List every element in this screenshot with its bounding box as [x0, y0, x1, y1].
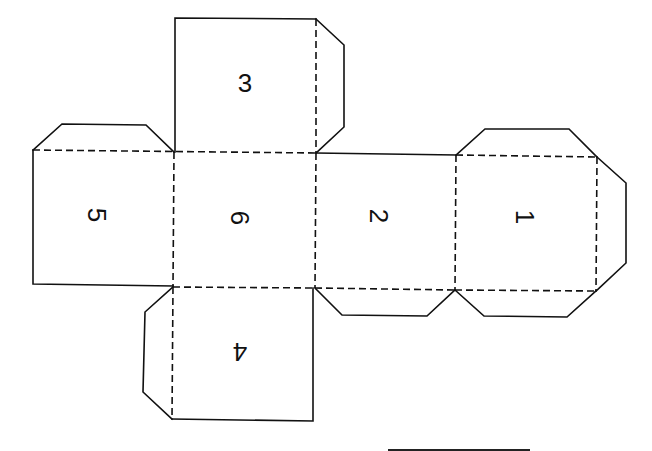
- cube-net-diagram: 3 5 6 2 1 4: [0, 0, 652, 451]
- face-3-label: 3: [215, 63, 275, 103]
- fold-6-4: [173, 287, 315, 288]
- face-6-label: 6: [220, 188, 260, 248]
- fold-1-top: [456, 155, 597, 157]
- face-2-label: 2: [359, 186, 399, 246]
- face-5-top-flap: [33, 124, 174, 152]
- face-4-label: 4: [210, 332, 270, 372]
- fold-5-6: [173, 152, 174, 287]
- face-4-left-flap: [143, 287, 173, 419]
- face-3-right-flap: [316, 19, 344, 153]
- fold-1-bottom: [455, 290, 596, 291]
- face-1-bottom-flap: [455, 290, 596, 317]
- fold-2-bottom: [315, 288, 455, 290]
- face-1-label: 1: [505, 187, 545, 247]
- face-2-bottom-flap: [315, 288, 455, 316]
- fold-4-left: [172, 287, 173, 419]
- face-5-label: 5: [77, 185, 117, 245]
- fold-2-1: [455, 155, 456, 290]
- face-1-right-flap: [596, 157, 626, 291]
- fold-6-2: [315, 153, 316, 288]
- face-2-top-edge: [316, 153, 456, 155]
- face-1-top-flap: [456, 129, 597, 157]
- fold-1-right: [596, 157, 597, 291]
